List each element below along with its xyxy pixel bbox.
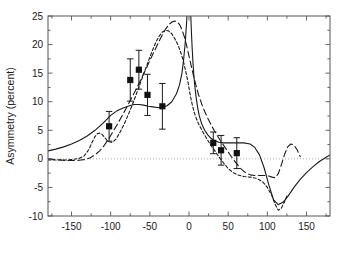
plot-frame <box>48 16 330 216</box>
asymmetry-chart-figure: -150-100-50050100150-10-50510152025Asymm… <box>0 0 346 258</box>
data-point-marker <box>144 92 150 98</box>
data-point-marker <box>234 150 240 156</box>
y-tick-label: 15 <box>32 68 44 79</box>
data-point <box>144 74 150 115</box>
data-point <box>136 50 142 89</box>
data-point-marker <box>127 77 133 83</box>
x-tick-label: 0 <box>186 221 192 232</box>
y-axis-title: Asymmetry (percent) <box>4 67 16 164</box>
x-tick-label: -150 <box>61 221 81 232</box>
data-point <box>210 132 216 154</box>
data-point <box>159 83 165 129</box>
y-tick-label: 20 <box>32 39 44 50</box>
y-tick-label: -10 <box>29 211 44 222</box>
data-point-marker <box>218 147 224 153</box>
data-point <box>127 59 133 101</box>
data-point <box>218 135 224 165</box>
y-tick-label: 5 <box>37 125 43 136</box>
data-point-marker <box>210 140 216 146</box>
y-tick-label: 0 <box>37 153 43 164</box>
x-tick-label: 100 <box>259 221 276 232</box>
x-tick-label: 150 <box>298 221 315 232</box>
data-point-marker <box>159 103 165 109</box>
y-tick-label: -5 <box>34 182 43 193</box>
data-point-marker <box>136 67 142 73</box>
x-tick-label: -50 <box>143 221 158 232</box>
data-point-marker <box>106 123 112 129</box>
asymmetry-plot: -150-100-50050100150-10-50510152025Asymm… <box>0 0 346 258</box>
curve-solid <box>48 0 330 205</box>
y-tick-label: 10 <box>32 96 44 107</box>
curve-dotted <box>48 30 288 210</box>
y-tick-label: 25 <box>32 11 44 22</box>
x-tick-label: 50 <box>223 221 235 232</box>
data-point <box>106 111 112 141</box>
x-tick-label: -100 <box>101 221 121 232</box>
